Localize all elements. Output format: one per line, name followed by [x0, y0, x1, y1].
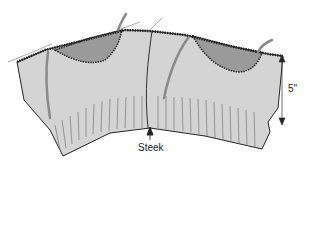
depth-label: 5"	[288, 83, 297, 94]
steek-label: Steek	[138, 142, 164, 153]
steek-arrow	[147, 127, 153, 140]
